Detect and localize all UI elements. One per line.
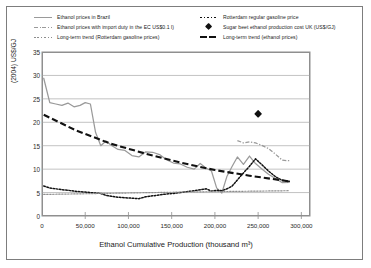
series-line [237, 141, 289, 161]
series-line [44, 78, 290, 193]
figure: Ethanol prices in Brazil Ethanol prices … [0, 0, 371, 268]
data-point-marker-diamond [254, 110, 262, 118]
x-axis-ticks: 050,000100,000150,000200,000250,000300,0… [0, 222, 371, 236]
series-line [44, 115, 290, 182]
plot-area-wrapper: (2004) US$/GJ 05101520253035 050,000100,… [0, 0, 371, 268]
x-axis-label: Ethanol Cumulative Production (thousand … [42, 240, 310, 249]
x-axis-tick-label: 300,000 [271, 222, 331, 229]
